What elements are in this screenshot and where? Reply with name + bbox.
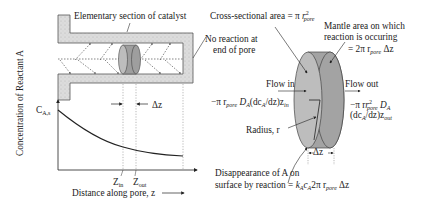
plot-axes (58, 100, 197, 170)
plot-xlabel: Distance along pore, z (72, 188, 155, 199)
plot-delta-z-label: Δz (152, 100, 162, 111)
disappearance-line1: Disappearance of A on (215, 168, 299, 179)
mantle-area-line1: Mantle area on which (324, 21, 405, 32)
guide-lines (123, 84, 183, 170)
flow-in-label: Flow in (266, 79, 295, 90)
no-reaction-label-line2: end of pore (213, 45, 255, 56)
pore-diffusion-diagram: Elementary section of catalyst No reacti… (0, 0, 424, 209)
no-reaction-label-line1: No reaction at (205, 34, 258, 45)
mantle-area-line2: reaction is occuring (324, 32, 397, 43)
flow-out-equation-line2: (dcA/dz)zout (350, 110, 392, 124)
z-out-tick (135, 170, 136, 176)
cross-sectional-area-label: Cross-sectional area = π r2pore (210, 8, 314, 25)
plot-y-start-label: CA,s (36, 105, 50, 119)
pore-element-detail-cylinder (294, 52, 344, 148)
elementary-section-leader (127, 23, 130, 32)
plot-ylabel: Concentration of Reactant A (15, 43, 25, 163)
pore-element-cylinder (119, 45, 141, 74)
flow-out-label: Flow out (345, 79, 378, 90)
concentration-curve (58, 110, 183, 156)
disappearance-line2: surface by reaction = kAcA2π rpore Δz (215, 180, 349, 194)
cylinder-delta-z-label: Δz (313, 147, 323, 158)
z-in-tick (121, 170, 123, 176)
flow-in-equation: −π rpore DA(dcA/dz)zin (211, 97, 289, 111)
elementary-section-label: Elementary section of catalyst (74, 11, 186, 22)
mantle-area-equation: = 2π rpore Δz (348, 44, 394, 58)
radius-label: Radius, r (246, 125, 280, 136)
